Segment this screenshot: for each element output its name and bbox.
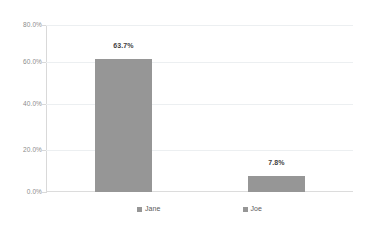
legend-swatch-icon-jane (137, 207, 142, 212)
legend-label-jane: Jane (145, 205, 161, 213)
bar-joe[interactable] (248, 176, 305, 192)
bar-chart: 80.0% 60.0% 40.0% 20.0% 0.0% 63.7% 7.8% … (0, 0, 370, 229)
y-tick-label-20: 20.0% (0, 146, 42, 154)
y-tick-label-0: 0.0% (0, 188, 42, 196)
legend-swatch-icon-joe (243, 207, 248, 212)
bar-value-label-joe: 7.8% (248, 159, 305, 166)
y-tick-mark-0 (42, 192, 46, 193)
gridline-20 (46, 150, 353, 151)
gridline-80 (46, 25, 353, 26)
bar-jane[interactable] (95, 59, 152, 192)
legend-item-jane[interactable]: Jane (137, 205, 161, 213)
gridline-40 (46, 104, 353, 105)
gridline-60 (46, 62, 353, 63)
legend-item-joe[interactable]: Joe (243, 205, 263, 213)
y-tick-label-60: 60.0% (0, 58, 42, 66)
gridline-0 (46, 191, 353, 192)
plot-area (46, 25, 353, 192)
y-tick-label-40: 40.0% (0, 100, 42, 108)
y-tick-label-80: 80.0% (0, 21, 42, 29)
legend: Jane Joe (46, 201, 353, 217)
legend-label-joe: Joe (251, 205, 263, 213)
bar-value-label-jane: 63.7% (95, 42, 152, 49)
y-axis: 80.0% 60.0% 40.0% 20.0% 0.0% (0, 0, 42, 229)
